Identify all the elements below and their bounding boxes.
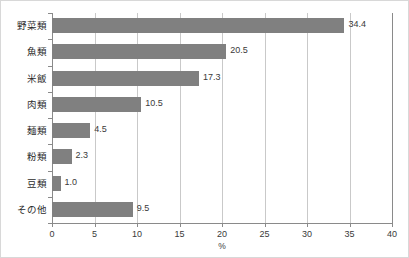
- x-tick-label-30: 30: [302, 229, 312, 239]
- category-label-米飯: 米飯: [1, 66, 47, 92]
- category-label-麺類: 麺類: [1, 118, 47, 144]
- y-tick: [48, 171, 52, 172]
- y-tick: [48, 144, 52, 145]
- gridline-40: [392, 13, 393, 223]
- x-tick-mark-25: [265, 223, 266, 227]
- bar-value-label: 34.4: [348, 17, 366, 32]
- bar-row: 2.3: [52, 144, 392, 170]
- x-axis-title: %: [218, 241, 226, 251]
- bar-麺類: [52, 123, 90, 138]
- x-tick-mark-0: [52, 223, 53, 227]
- category-label-肉類: 肉類: [1, 92, 47, 118]
- y-tick: [48, 197, 52, 198]
- x-tick-label-5: 5: [92, 229, 97, 239]
- bar-value-label: 2.3: [76, 148, 89, 163]
- category-label-野菜類: 野菜類: [1, 13, 47, 39]
- y-tick: [48, 118, 52, 119]
- category-label-その他: その他: [1, 197, 47, 223]
- bar-肉類: [52, 97, 141, 112]
- x-tick-mark-10: [137, 223, 138, 227]
- x-tick-label-40: 40: [387, 229, 397, 239]
- x-tick-mark-35: [350, 223, 351, 227]
- bar-value-label: 4.5: [94, 122, 107, 137]
- x-tick-mark-40: [392, 223, 393, 227]
- bar-その他: [52, 202, 133, 217]
- category-axis-labels: 野菜類魚類米飯肉類麺類粉類豆類その他: [1, 13, 47, 223]
- bar-row: 9.5: [52, 197, 392, 223]
- x-tick-label-10: 10: [132, 229, 142, 239]
- y-tick: [48, 13, 52, 14]
- category-label-魚類: 魚類: [1, 39, 47, 65]
- x-tick-mark-30: [307, 223, 308, 227]
- bar-米飯: [52, 71, 199, 86]
- bar-野菜類: [52, 18, 344, 33]
- x-tick-label-35: 35: [344, 229, 354, 239]
- bar-value-label: 9.5: [137, 201, 150, 216]
- bar-row: 34.4: [52, 13, 392, 39]
- x-tick-label-25: 25: [259, 229, 269, 239]
- bar-row: 17.3: [52, 66, 392, 92]
- bar-value-label: 1.0: [65, 175, 78, 190]
- category-label-豆類: 豆類: [1, 171, 47, 197]
- y-tick: [48, 39, 52, 40]
- bar-row: 20.5: [52, 39, 392, 65]
- bar-豆類: [52, 176, 61, 191]
- y-tick: [48, 66, 52, 67]
- x-tick-mark-20: [222, 223, 223, 227]
- bar-value-label: 20.5: [230, 43, 248, 58]
- x-tick-mark-15: [180, 223, 181, 227]
- x-tick-label-20: 20: [217, 229, 227, 239]
- category-label-粉類: 粉類: [1, 144, 47, 170]
- x-tick-mark-5: [95, 223, 96, 227]
- bar-value-label: 17.3: [203, 70, 221, 85]
- y-tick: [48, 92, 52, 93]
- x-tick-label-0: 0: [49, 229, 54, 239]
- bar-魚類: [52, 44, 226, 59]
- bar-row: 4.5: [52, 118, 392, 144]
- bar-chart: 野菜類魚類米飯肉類麺類粉類豆類その他 34.420.517.310.54.52.…: [0, 0, 409, 258]
- bar-粉類: [52, 149, 72, 164]
- plot-area: 34.420.517.310.54.52.31.09.5: [52, 13, 392, 223]
- x-tick-label-15: 15: [174, 229, 184, 239]
- bar-row: 10.5: [52, 92, 392, 118]
- bar-row: 1.0: [52, 171, 392, 197]
- bar-value-label: 10.5: [145, 96, 163, 111]
